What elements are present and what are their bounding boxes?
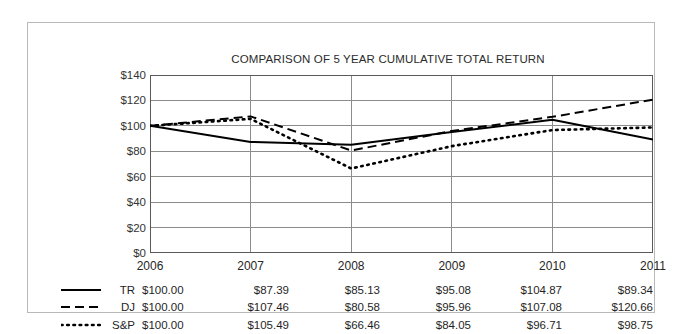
y-axis-tick-label: $120 — [90, 94, 146, 106]
series-value-cell: $95.96 — [382, 301, 473, 313]
x-axis-tick-label: 2006 — [110, 259, 190, 273]
series-value-cell: $95.08 — [382, 284, 473, 296]
y-axis-tick-label: $100 — [90, 120, 146, 132]
x-axis-tick-label: 2011 — [613, 259, 679, 273]
series-value-cell: $107.08 — [473, 301, 564, 313]
y-axis: $0$20$40$60$80$100$120$140 — [86, 75, 146, 253]
y-axis-tick-label: $60 — [90, 171, 146, 183]
series-name-label: DJ — [103, 301, 139, 313]
table-row: TR$100.00$87.39$85.13$95.08$104.87$89.34 — [61, 281, 655, 299]
y-axis-tick-label: $40 — [90, 196, 146, 208]
plot-area — [150, 75, 653, 253]
legend-line-swatch-s&p — [61, 319, 103, 331]
legend-line-swatch-dj — [61, 301, 103, 313]
y-axis-tick-label: $80 — [90, 145, 146, 157]
y-axis-tick-label: $20 — [90, 222, 146, 234]
series-value-cell: $66.46 — [291, 319, 382, 331]
series-value-cell: $84.05 — [382, 319, 473, 331]
series-name-label: TR — [103, 284, 139, 296]
chart-panel: COMPARISON OF 5 YEAR CUMULATIVE TOTAL RE… — [27, 22, 655, 313]
series-value-cell: $120.66 — [564, 301, 655, 313]
series-value-cell: $98.75 — [564, 319, 655, 331]
series-value-cell: $100.00 — [139, 301, 200, 313]
series-value-cell: $80.58 — [291, 301, 382, 313]
series-value-cell: $85.13 — [291, 284, 382, 296]
series-value-cell: $100.00 — [139, 284, 200, 296]
x-axis-tick-label: 2008 — [311, 259, 391, 273]
series-value-cell: $96.71 — [473, 319, 564, 331]
y-axis-tick-label: $0 — [90, 247, 146, 259]
series-value-cell: $100.00 — [139, 319, 200, 331]
y-axis-tick-label: $140 — [90, 69, 146, 81]
legend-line-swatch-tr — [61, 284, 103, 296]
series-value-cell: $104.87 — [473, 284, 564, 296]
x-axis-tick-label: 2007 — [211, 259, 291, 273]
series-value-cell: $105.49 — [200, 319, 291, 331]
x-axis: 200620072008200920102011 — [150, 259, 653, 275]
line-chart-svg — [150, 75, 653, 253]
x-axis-tick-label: 2010 — [512, 259, 592, 273]
x-axis-tick-label: 2009 — [412, 259, 492, 273]
series-value-cell: $107.46 — [200, 301, 291, 313]
table-row: DJ$100.00$107.46$80.58$95.96$107.08$120.… — [61, 299, 655, 317]
series-value-cell: $89.34 — [564, 284, 655, 296]
series-name-label: S&P — [103, 319, 139, 331]
chart-title: COMPARISON OF 5 YEAR CUMULATIVE TOTAL RE… — [123, 53, 653, 65]
table-row: S&P$100.00$105.49$66.46$84.05$96.71$98.7… — [61, 316, 655, 334]
series-value-cell: $87.39 — [200, 284, 291, 296]
series-data-table: TR$100.00$87.39$85.13$95.08$104.87$89.34… — [61, 281, 655, 334]
